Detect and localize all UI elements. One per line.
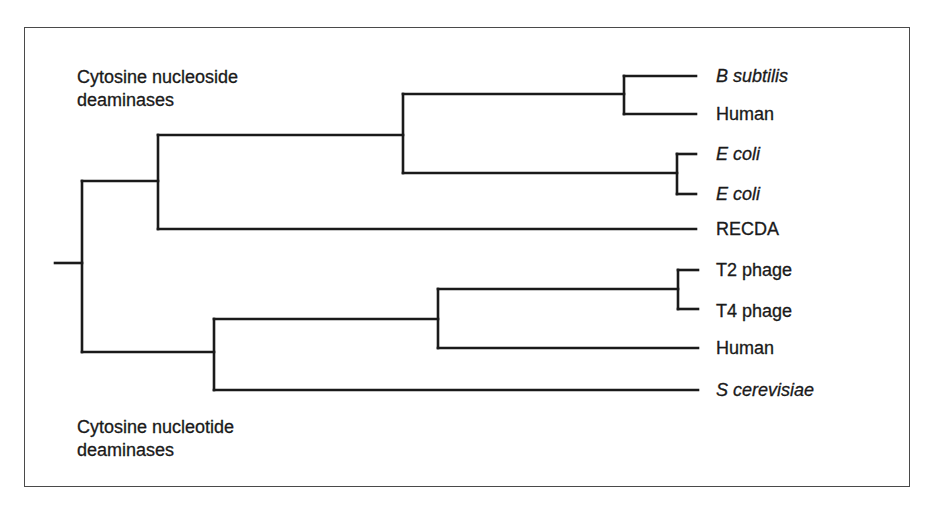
group-label-line: Cytosine nucleotide bbox=[77, 416, 234, 439]
leaf-label-recda: RECDA bbox=[716, 219, 779, 239]
leaf-label-b-subtilis: B subtilis bbox=[716, 66, 788, 86]
diagram-canvas: Cytosine nucleoside deaminases Cytosine … bbox=[0, 0, 933, 510]
leaf-label-s-cerevisiae: S cerevisiae bbox=[716, 380, 814, 400]
group-label-line: deaminases bbox=[77, 439, 234, 462]
leaf-label-human-nucleotide: Human bbox=[716, 338, 774, 358]
group-label-nucleoside: Cytosine nucleoside deaminases bbox=[77, 66, 238, 112]
group-label-line: Cytosine nucleoside bbox=[77, 66, 238, 89]
leaf-label-t2-phage: T2 phage bbox=[716, 260, 792, 280]
group-label-nucleotide: Cytosine nucleotide deaminases bbox=[77, 416, 234, 462]
group-label-line: deaminases bbox=[77, 89, 238, 112]
leaf-label-t4-phage: T4 phage bbox=[716, 301, 792, 321]
leaf-label-e-coli-1: E coli bbox=[716, 144, 760, 164]
leaf-label-e-coli-2: E coli bbox=[716, 184, 760, 204]
leaf-label-human-nucleoside: Human bbox=[716, 104, 774, 124]
